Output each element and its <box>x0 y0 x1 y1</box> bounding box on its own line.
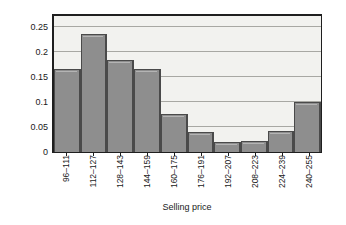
y-axis-tick-label: 0.1 <box>35 98 48 107</box>
x-axis-tick-label: 144–159 <box>142 155 152 188</box>
x-tick-cell: 192–207 <box>214 153 241 201</box>
y-axis-tick-label: 0 <box>43 148 48 157</box>
plot-area <box>52 14 322 153</box>
x-tick-cell: 176–191 <box>187 153 214 201</box>
bar <box>214 142 241 152</box>
x-axis-tick-label: 208–223 <box>250 155 260 188</box>
bar <box>268 131 295 152</box>
y-axis-tick-label: 0.15 <box>30 73 48 82</box>
x-tick-cell: 128–143 <box>106 153 133 201</box>
x-axis-tick-label: 192–207 <box>223 155 233 188</box>
x-axis-tick-label: 96–111 <box>61 155 71 182</box>
bar-series <box>54 16 321 152</box>
x-axis-tick-label: 160–175 <box>169 155 179 188</box>
bar <box>188 132 215 152</box>
bar <box>54 69 81 152</box>
x-axis-tick-label: 176–191 <box>196 155 206 188</box>
y-axis-tick-label: 0.2 <box>35 48 48 57</box>
x-axis-tick-labels: 96–111112–127128–143144–159160–175176–19… <box>52 153 322 201</box>
x-axis-tick-label: 224–239 <box>277 155 287 188</box>
bar <box>107 60 134 152</box>
x-tick-cell: 224–239 <box>268 153 295 201</box>
x-tick-cell: 208–223 <box>241 153 268 201</box>
bar <box>241 141 268 152</box>
x-axis-tick-label: 240–255 <box>304 155 314 188</box>
x-tick-cell: 112–127 <box>79 153 106 201</box>
x-tick-cell: 160–175 <box>160 153 187 201</box>
bar <box>294 102 321 152</box>
x-axis-tick-label: 128–143 <box>115 155 125 188</box>
y-axis-tick-labels: 00.050.10.150.20.25 <box>22 0 48 225</box>
bar <box>134 69 161 152</box>
y-axis-tick-label: 0.05 <box>30 123 48 132</box>
bar <box>81 34 108 152</box>
x-tick-cell: 240–255 <box>295 153 322 201</box>
y-axis-tick-label: 0.25 <box>30 23 48 32</box>
bar <box>161 114 188 152</box>
x-axis-tick-label: 112–127 <box>88 155 98 187</box>
x-axis-title: Selling price <box>52 202 322 213</box>
histogram-figure: Relative frequency 00.050.10.150.20.25 9… <box>0 0 346 225</box>
x-tick-cell: 144–159 <box>133 153 160 201</box>
x-tick-cell: 96–111 <box>52 153 79 201</box>
